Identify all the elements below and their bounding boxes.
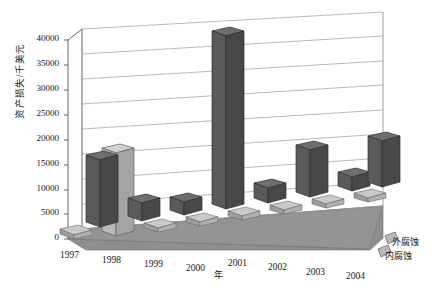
y-tick-35000: 35000 [11,58,59,68]
x-tick-1997: 1997 [60,250,79,260]
y-tick-20000: 20000 [11,133,59,143]
bar-back-2004 [338,168,370,191]
x-tick-1999: 1999 [144,259,163,269]
bar-chart-3d [0,0,431,285]
legend-item-external: 外腐蚀 [392,235,420,248]
bar-back-1998 [86,151,118,227]
x-tick-2001: 2001 [228,258,247,268]
chart-left-wall [68,29,82,239]
x-tick-2004: 2004 [346,271,365,281]
x-tick-2003: 2003 [306,267,325,277]
y-tick-15000: 15000 [11,158,59,168]
bar-back-1999 [128,194,160,221]
bar-back-2002 [254,179,286,203]
bar-back-2001 [212,27,244,209]
bar-back-2003 [296,141,328,197]
legend-item-internal: 内腐蚀 [385,249,413,262]
x-axis-title: 年 [214,268,223,281]
y-tick-40000: 40000 [11,33,59,43]
x-tick-2002: 2002 [268,262,287,272]
y-tick-5000: 5000 [11,207,59,217]
y-tick-30000: 30000 [11,83,59,93]
x-tick-2000: 2000 [186,263,205,273]
y-tick-0: 0 [11,232,59,242]
y-tick-25000: 25000 [11,108,59,118]
x-tick-1998: 1998 [102,255,121,265]
y-tick-10000: 10000 [11,183,59,193]
bar-back-2004-extra [368,132,400,187]
